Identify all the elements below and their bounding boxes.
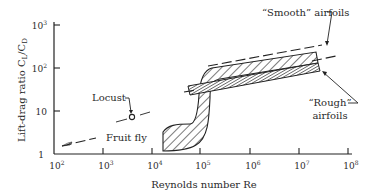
locust-dash-left (116, 119, 127, 122)
rough-airfoils-label-line2: airfoils (312, 110, 347, 121)
x-tick-label: 107 (294, 159, 309, 171)
y-tick-labels: 1 10 102 103 (32, 19, 48, 160)
x-axis-title: Reynolds number Re (151, 179, 257, 190)
smooth-airfoils-label: “Smooth” airfoils (262, 7, 349, 18)
rough-airfoils-label-line1: “Rough” (308, 97, 351, 108)
x-tick-label: 106 (245, 159, 260, 171)
x-tick-label: 105 (195, 159, 210, 171)
locust-marker (129, 114, 134, 119)
fruit-fly-line (62, 138, 96, 146)
smooth-annotation: “Smooth” airfoils (262, 7, 349, 46)
y-tick-label: 10 (36, 107, 48, 117)
locust-dash-right (140, 112, 150, 115)
locust-arrowhead (129, 110, 133, 114)
locust-label: Locust (92, 92, 126, 103)
x-tick-label: 103 (98, 159, 113, 171)
y-tick-label: 102 (32, 62, 47, 74)
lift-drag-chart: 1 10 102 103 102 103 104 105 106 107 108… (0, 0, 384, 196)
x-tick-label: 108 (343, 159, 358, 171)
y-axis-title: Lift-drag ratio CL/CD (16, 38, 29, 142)
x-tick-label: 102 (49, 159, 64, 171)
x-tick-labels: 102 103 104 105 106 107 108 (49, 159, 358, 171)
fruit-fly-series: Fruit fly (62, 132, 147, 146)
y-tick-label: 103 (32, 19, 47, 31)
locust-leader-arrow (125, 98, 131, 112)
y-tick-label: 1 (38, 150, 44, 160)
x-tick-label: 104 (147, 159, 162, 171)
locust-series: Locust (92, 92, 150, 122)
smooth-arrowhead (325, 41, 329, 46)
rough-annotation: “Rough” airfoils (308, 71, 358, 121)
fruit-fly-label: Fruit fly (106, 132, 147, 143)
